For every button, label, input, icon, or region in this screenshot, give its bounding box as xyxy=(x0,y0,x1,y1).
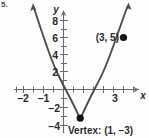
y-tick-label-neg2: –2 xyxy=(48,102,60,114)
x-tick-label-neg1: –1 xyxy=(38,92,50,104)
y-tick-label-4: 4 xyxy=(52,49,58,61)
graph-figure: 5. xyxy=(0,0,149,138)
vertex-annotation: Vertex: (1, –3) xyxy=(68,125,133,136)
vertex-marker xyxy=(77,115,84,122)
x-tick-label-neg2: –2 xyxy=(17,92,29,104)
point-label-3-5: (3, 5) xyxy=(96,32,119,43)
x-tick-label-3: 3 xyxy=(112,92,118,104)
y-tick-label-6: 6 xyxy=(52,32,58,44)
y-tick-label-2: 2 xyxy=(52,66,58,78)
coordinate-plane: y x 8 6 4 2 –2 –4 –2 –1 3 (3, 5) Vertex:… xyxy=(0,0,149,138)
x-axis-label: x xyxy=(139,90,146,101)
curve-right-arrow-icon xyxy=(125,2,131,10)
point-3-5-marker xyxy=(120,34,127,41)
y-tick-label-8: 8 xyxy=(52,15,58,27)
y-tick-label-neg4: –4 xyxy=(48,120,60,132)
y-axis-label: y xyxy=(52,4,59,15)
